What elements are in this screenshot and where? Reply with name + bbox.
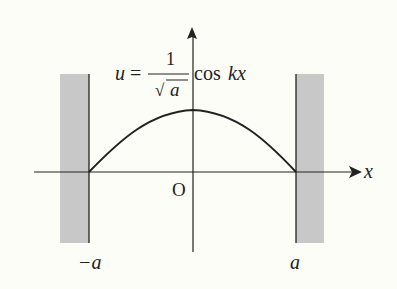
formula-numerator: 1 [166, 49, 175, 69]
wavefunction-diagram: u = 1 √ a cos kx O x −a a [0, 0, 397, 289]
origin-label: O [172, 179, 186, 200]
formula-func: cos [194, 62, 221, 84]
formula-denominator: a [170, 79, 180, 100]
u-axis-arrow-icon [187, 27, 197, 39]
right-wall [296, 74, 324, 243]
formula-equals: = [130, 62, 141, 84]
left-tick-label: −a [78, 251, 102, 273]
x-axis-label: x [363, 160, 373, 182]
left-wall [60, 74, 89, 243]
formula-arg: kx [228, 62, 246, 84]
formula-lhs: u [115, 62, 125, 84]
formula-sqrt: √ [155, 81, 165, 100]
right-tick-label: a [290, 251, 300, 273]
